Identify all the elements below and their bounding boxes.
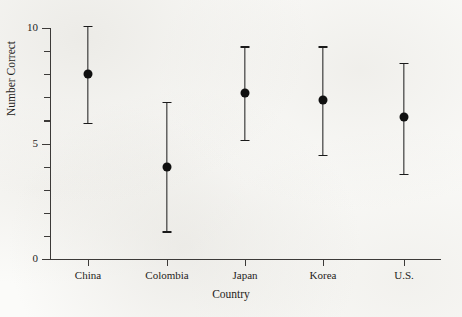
- error-cap-lower-japan: [241, 140, 250, 141]
- data-point-japan: [241, 88, 250, 97]
- error-cap-lower-korea: [319, 155, 328, 156]
- error-cap-upper-china: [84, 26, 93, 27]
- error-cap-upper-japan: [241, 46, 250, 47]
- error-cap-lower-us: [400, 174, 409, 175]
- error-cap-upper-us: [400, 63, 409, 64]
- error-cap-lower-colombia: [163, 231, 172, 232]
- data-point-colombia: [163, 162, 172, 171]
- y-axis-title: Number Correct: [5, 100, 17, 116]
- data-point-china: [84, 70, 93, 79]
- plot-area: 10 5 0 China Colombia Japan Korea U.S.: [0, 0, 462, 317]
- chart-figure: 10 5 0 China Colombia Japan Korea U.S. C…: [0, 0, 462, 317]
- error-cap-lower-china: [84, 123, 93, 124]
- data-point-us: [400, 112, 409, 121]
- error-cap-upper-colombia: [163, 102, 172, 103]
- x-axis-title: Country: [0, 288, 462, 300]
- data-point-korea: [319, 95, 328, 104]
- error-cap-upper-korea: [319, 46, 328, 47]
- data-series-layer: [0, 0, 462, 317]
